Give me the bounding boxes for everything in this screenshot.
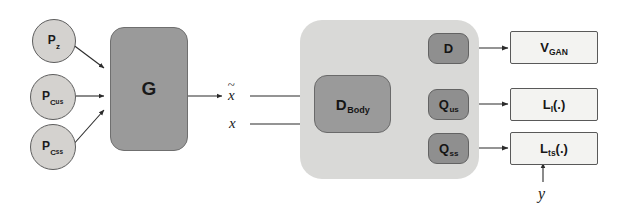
prior-node-pcus[interactable]: PCus: [30, 74, 76, 120]
signal-label-x-tilde: ~x: [228, 87, 235, 104]
generator-label: G: [142, 78, 157, 100]
signal-label-y: y: [538, 185, 545, 203]
prior-label-pz: Pz: [48, 33, 60, 49]
discriminator-body-block[interactable]: DBody: [314, 75, 391, 133]
edge-pcss-to-g: [72, 110, 104, 146]
output-block-lts[interactable]: Lts(.): [510, 132, 598, 165]
output-label-lts: Lts(.): [540, 141, 568, 156]
output-label-li: LI(.): [543, 97, 566, 112]
discriminator-body-label: DBody: [336, 96, 369, 113]
head-label-d: D: [444, 41, 453, 56]
diagram-canvas: Pz PCus PCss G ~x x y DBody D Qus Qss VG…: [0, 0, 617, 213]
head-label-qss: Qss: [439, 141, 458, 156]
head-block-qss[interactable]: Qss: [428, 133, 469, 164]
prior-label-pcus: PCus: [42, 89, 64, 105]
output-block-li[interactable]: LI(.): [510, 88, 598, 121]
output-block-vgan[interactable]: VGAN: [510, 31, 598, 64]
prior-node-pcss[interactable]: PCss: [30, 124, 76, 170]
generator-block[interactable]: G: [110, 27, 188, 151]
head-block-qus[interactable]: Qus: [428, 89, 469, 120]
head-block-d[interactable]: D: [428, 33, 469, 64]
prior-label-pcss: PCss: [42, 139, 64, 155]
head-label-qus: Qus: [439, 97, 458, 112]
prior-node-pz[interactable]: Pz: [32, 19, 76, 63]
edge-pz-to-g: [72, 44, 104, 68]
signal-label-x: x: [229, 115, 236, 132]
output-label-vgan: VGAN: [540, 40, 568, 55]
